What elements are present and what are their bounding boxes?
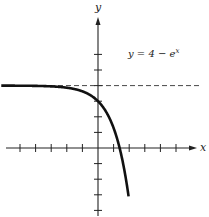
y-axis-label: y xyxy=(95,2,101,13)
equation-annotation: y = 4 − ex xyxy=(128,47,179,59)
x-axis-label: x xyxy=(200,142,206,153)
curve-line xyxy=(1,86,128,197)
chart-figure: y x y = 4 − ex xyxy=(0,0,209,217)
y-axis-arrow-icon xyxy=(96,17,101,25)
equation-text: y = 4 − e xyxy=(128,48,175,59)
plot-area xyxy=(0,0,209,217)
x-axis-arrow-icon xyxy=(189,146,197,151)
equation-exponent: x xyxy=(175,47,179,55)
